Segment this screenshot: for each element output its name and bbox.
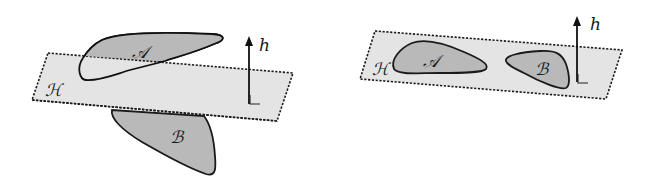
- left-set-a-overlap: [84, 33, 223, 61]
- right-normal-arrowhead-icon: [573, 16, 581, 26]
- left-panel: ℋ 𝒜 ℬ h: [32, 33, 293, 175]
- diagram-canvas: ℋ 𝒜 ℬ h ℋ 𝒜 ℬ h: [0, 0, 646, 189]
- left-set-b-label: ℬ: [170, 127, 185, 147]
- left-normal-arrowhead-icon: [245, 36, 253, 46]
- right-set-b-label: ℬ: [535, 59, 550, 79]
- right-panel: ℋ 𝒜 ℬ h: [360, 14, 622, 99]
- right-normal-label: h: [590, 14, 601, 34]
- left-normal-label: h: [259, 35, 270, 55]
- left-set-b-shape: [112, 110, 216, 175]
